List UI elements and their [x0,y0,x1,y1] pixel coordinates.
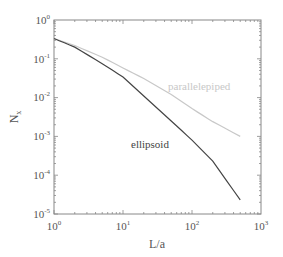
log-log-chart: parallelepiped ellipsoid 100 10-1 10-2 1… [0,0,283,257]
ellipsoid-annotation: ellipsoid [131,138,169,150]
parallelepiped-annotation: parallelepiped [168,80,231,92]
x-tick-label: 103 [254,219,269,232]
y-tick-label: 100 [36,13,51,26]
y-tick-label: 10-2 [33,90,50,103]
y-tick-labels: 100 10-1 10-2 10-3 10-4 10-5 [33,13,50,220]
x-tick-label: 101 [116,219,131,232]
x-axis-label: L/a [149,237,166,251]
x-tick-label: 100 [47,219,62,232]
x-tick-labels: 100 101 102 103 [47,219,269,232]
x-tick-label: 102 [185,219,200,232]
y-tick-label: 10-3 [33,129,50,142]
y-tick-label: 10-1 [33,52,50,65]
svg-text:Nx: Nx [7,111,23,124]
y-axis-label: Nx [7,111,23,124]
y-tick-label: 10-5 [33,207,50,220]
y-tick-label: 10-4 [33,168,50,181]
